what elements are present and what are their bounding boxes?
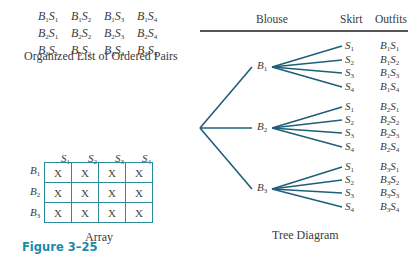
tree-node-skirt: S3: [345, 186, 354, 200]
tree-outfit: B1S3: [380, 66, 399, 80]
tree-node-skirt: S4: [345, 80, 354, 94]
tree-outfit: B3S1: [380, 160, 399, 174]
tree-outfit: B3S2: [380, 173, 399, 187]
tree-outfit: B2S2: [380, 113, 399, 127]
tree-node-skirt: S1: [345, 160, 354, 174]
tree-node-skirt: S1: [345, 39, 354, 53]
tree-node-skirt: S2: [345, 53, 354, 67]
tree-node-blouse: B3: [257, 181, 267, 195]
tree-outfit: B2S3: [380, 126, 399, 140]
tree-node-skirt: S3: [345, 126, 354, 140]
tree-node-blouse: B1: [257, 59, 267, 73]
tree-outfit: B2S1: [380, 100, 399, 114]
tree-outfit: B3S3: [380, 186, 399, 200]
tree-node-skirt: S4: [345, 200, 354, 214]
tree-outfit: B2S4: [380, 140, 399, 154]
tree-node-skirt: S4: [345, 140, 354, 154]
tree-outfit: B1S2: [380, 53, 399, 67]
tree-node-skirt: S2: [345, 113, 354, 127]
tree-node-skirt: S3: [345, 66, 354, 80]
tree-caption: Tree Diagram: [272, 228, 339, 243]
tree-outfit: B1S4: [380, 80, 399, 94]
tree-branches: [0, 0, 417, 258]
tree-node-skirt: S2: [345, 173, 354, 187]
tree-node-blouse: B2: [257, 120, 267, 134]
tree-outfit: B3S4: [380, 200, 399, 214]
tree-outfit: B1S1: [380, 39, 399, 53]
tree-node-skirt: S1: [345, 100, 354, 114]
